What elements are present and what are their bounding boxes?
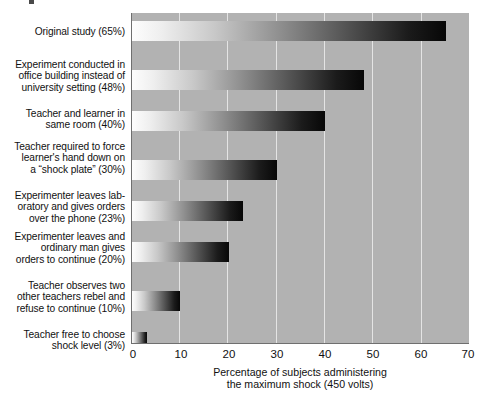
x-axis-title-line-1: Percentage of subjects administering bbox=[131, 366, 469, 378]
x-tick-label: 40 bbox=[319, 348, 332, 360]
category-label: Experiment conducted in office building … bbox=[1, 59, 125, 93]
bar-free-to-choose bbox=[132, 332, 147, 344]
x-axis-title-line-2: the maximum shock (450 volts) bbox=[131, 378, 469, 390]
category-label: Original study (65%) bbox=[1, 26, 125, 37]
gridline-50 bbox=[372, 13, 373, 344]
x-tick-label: 20 bbox=[223, 348, 236, 360]
milgram-obedience-bar-chart: Original study (65%) Experiment conducte… bbox=[0, 0, 477, 399]
x-tick-label: 50 bbox=[367, 348, 380, 360]
gridline-60 bbox=[421, 13, 422, 344]
x-tick-label: 60 bbox=[415, 348, 428, 360]
x-tick-label: 30 bbox=[271, 348, 284, 360]
category-label: Teacher required to force learner's hand… bbox=[1, 141, 125, 175]
category-label: Teacher observes two other teachers rebe… bbox=[1, 280, 125, 314]
category-label: Teacher and learner in same room (40%) bbox=[1, 108, 125, 131]
bar-teachers-rebel bbox=[132, 291, 180, 311]
x-axis-title: Percentage of subjects administering the… bbox=[131, 366, 469, 391]
x-tick-label: 0 bbox=[130, 348, 136, 360]
x-axis-tick-row: 0 10 20 30 40 50 60 70 bbox=[0, 348, 477, 364]
cropped-glyph-artifact bbox=[29, 0, 34, 4]
x-tick-label: 70 bbox=[462, 348, 475, 360]
bar-ordinary-man bbox=[132, 242, 229, 262]
plot-area bbox=[131, 13, 469, 344]
bar-shock-plate bbox=[132, 160, 277, 180]
gridline-40 bbox=[324, 13, 325, 344]
x-tick-label: 10 bbox=[175, 348, 188, 360]
category-label: Experimenter leaves lab- oratory and giv… bbox=[1, 190, 125, 224]
category-label: Experimenter leaves and ordinary man giv… bbox=[1, 231, 125, 265]
bar-original-study bbox=[132, 21, 446, 41]
bar-same-room bbox=[132, 111, 325, 131]
bar-office-building bbox=[132, 70, 364, 90]
bar-orders-by-phone bbox=[132, 201, 243, 221]
category-label-column: Original study (65%) Experiment conducte… bbox=[0, 14, 128, 344]
